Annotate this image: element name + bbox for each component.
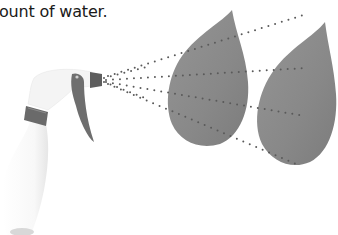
spray-illustration [0,0,338,235]
spray-bottle [2,69,102,235]
leaf-1 [168,10,248,146]
leaf-2 [257,22,336,165]
